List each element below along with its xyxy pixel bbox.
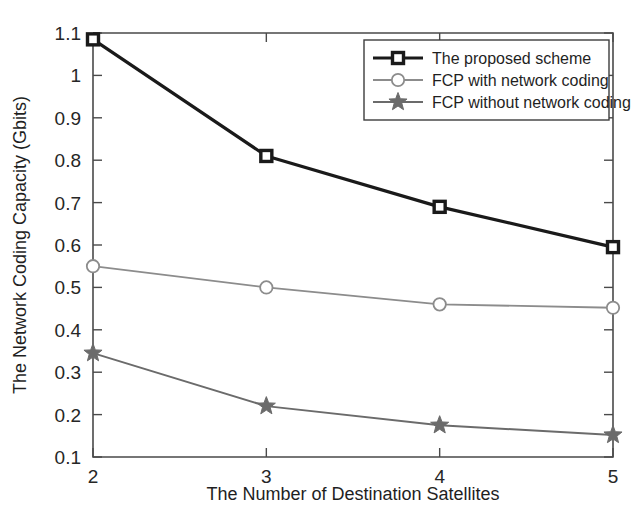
data-point-marker-square [608,242,619,253]
line-chart-canvas: 0.10.20.30.40.50.60.70.80.911.1 2345 The… [0,0,643,521]
series-line [93,266,613,308]
y-tick-label: 0.9 [55,108,81,129]
data-point-marker-square [393,53,404,64]
data-point-marker-square [261,150,272,161]
data-point-marker-circle [392,74,404,86]
y-tick-label: 1.1 [55,23,81,44]
data-point-marker-star [431,416,449,433]
data-point-marker-circle [433,298,445,310]
y-tick-label: 0.1 [55,447,81,468]
y-tick-label: 0.8 [55,150,81,171]
series-line [93,353,613,435]
legend-label: FCP without network coding [432,94,631,111]
data-point-marker-circle [260,281,272,293]
x-tick-label: 5 [608,466,619,487]
y-axis-tick-labels: 0.10.20.30.40.50.60.70.80.911.1 [55,23,82,468]
series-2 [87,260,619,314]
legend-label: The proposed scheme [432,50,591,67]
x-tick-label: 2 [88,466,99,487]
data-point-marker-circle [87,260,99,272]
y-tick-label: 0.4 [55,320,82,341]
data-point-marker-star [257,397,275,414]
y-tick-label: 0.7 [55,193,81,214]
data-point-marker-circle [607,302,619,314]
y-tick-label: 0.5 [55,277,81,298]
y-tick-label: 0.2 [55,405,81,426]
legend-label: FCP with network coding [432,72,609,89]
data-point-marker-square [434,201,445,212]
data-point-marker-square [88,34,99,45]
x-axis-title: The Number of Destination Satellites [206,484,499,504]
y-tick-label: 1 [70,65,81,86]
chart-legend: The proposed schemeFCP with network codi… [364,40,631,120]
y-tick-label: 0.3 [55,362,81,383]
series-3 [84,344,622,443]
y-tick-label: 0.6 [55,235,81,256]
chart-figure: 0.10.20.30.40.50.60.70.80.911.1 2345 The… [0,0,643,521]
y-axis-title: The Network Coding Capacity (Gbits) [10,96,30,394]
